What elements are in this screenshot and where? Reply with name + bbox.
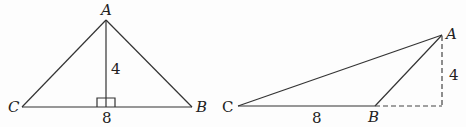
right-base-label: 8 xyxy=(312,109,322,127)
right-triangle: A C B 4 8 xyxy=(222,25,459,127)
left-vertex-c-label: C xyxy=(8,98,20,116)
triangles-diagram: A C B 4 8 A C B 4 8 xyxy=(0,0,466,127)
diagram-canvas: A C B 4 8 A C B 4 8 xyxy=(0,0,466,127)
left-vertex-a-label: A xyxy=(99,1,112,19)
left-height-label: 4 xyxy=(111,60,121,78)
right-vertex-c-label: C xyxy=(222,98,233,116)
right-side-ca xyxy=(238,35,442,106)
right-height-label: 4 xyxy=(449,66,459,84)
right-side-ba xyxy=(375,35,442,106)
left-vertex-b-label: B xyxy=(195,98,207,116)
left-triangle: A C B 4 8 xyxy=(8,1,207,127)
right-vertex-a-label: A xyxy=(444,25,457,43)
left-base-label: 8 xyxy=(102,109,112,127)
left-side-ca xyxy=(22,20,106,107)
right-vertex-b-label: B xyxy=(367,108,379,126)
